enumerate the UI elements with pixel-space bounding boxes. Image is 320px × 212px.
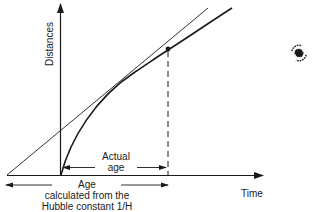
actual-age-label-line1: Actual (102, 151, 130, 162)
hubble-age-label-line1: Age (78, 179, 96, 190)
x-axis-label: Time (241, 188, 263, 199)
expansion-curve (61, 8, 232, 175)
y-axis-label: Distances (44, 22, 55, 66)
diagram-canvas: Distances Time Actual age Age calculated… (0, 0, 320, 212)
hubble-age-diagram: Distances Time Actual age Age calculated… (0, 0, 320, 212)
hubble-age-label-line2: calculated from the (45, 190, 130, 201)
actual-age-label-line2: age (108, 162, 125, 173)
hubble-age-label-line3: Hubble constant 1/H (42, 201, 133, 212)
tangent-line (7, 8, 208, 175)
present-point (166, 47, 171, 52)
spiral-galaxy-icon (292, 45, 306, 60)
